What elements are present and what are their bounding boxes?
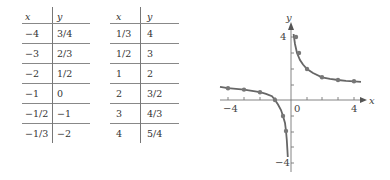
x-axis-label: x xyxy=(369,95,375,106)
y-tick-label-4: 4 xyxy=(280,31,286,42)
curve-right-branch xyxy=(294,34,361,82)
y-axis-label: y xyxy=(285,12,292,23)
curve-left-branch xyxy=(220,87,288,157)
x-tick-label-4: 4 xyxy=(351,103,357,114)
x-axis-arrow-icon xyxy=(360,97,367,103)
y-axis-arrow-icon xyxy=(288,22,294,30)
y-tick-label-neg4: −4 xyxy=(275,157,290,168)
x-tick-label-zero: 0 xyxy=(294,103,300,114)
x-tick-label-neg4: −4 xyxy=(223,103,238,114)
function-graph: x y −4 0 4 4 −4 xyxy=(0,0,390,180)
